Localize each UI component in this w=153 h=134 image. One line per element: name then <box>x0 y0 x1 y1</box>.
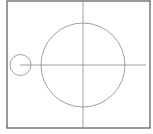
geometric-diagram <box>0 0 153 134</box>
frame-border <box>7 1 150 128</box>
